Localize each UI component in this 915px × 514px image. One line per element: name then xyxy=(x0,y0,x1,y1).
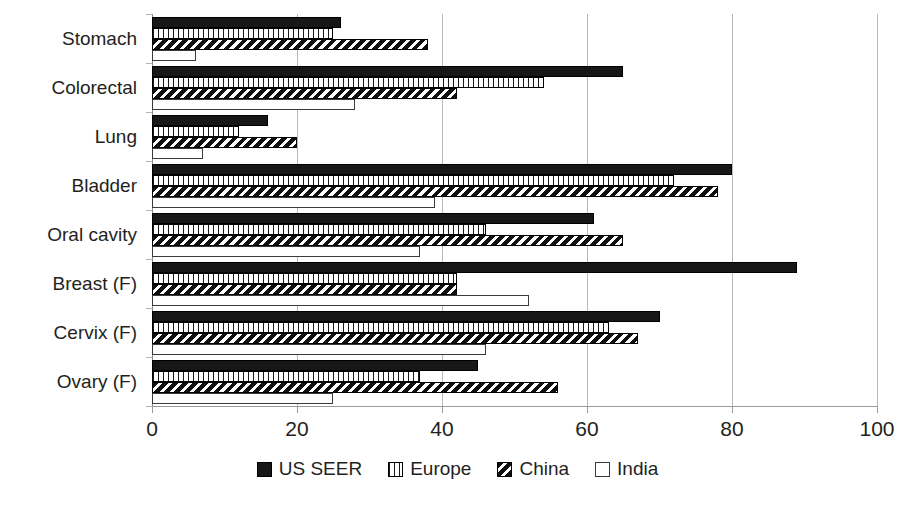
legend-label: China xyxy=(519,458,569,480)
bar-bladder-china xyxy=(152,186,718,197)
x-tick-0 xyxy=(152,406,153,413)
legend-item-china[interactable]: China xyxy=(497,458,569,480)
category-tick xyxy=(146,357,152,358)
bar-stomach-china xyxy=(152,39,428,50)
bar-cervix-f-india xyxy=(152,344,486,355)
x-tick-label-20: 20 xyxy=(285,417,308,441)
x-tick-label-0: 0 xyxy=(146,417,158,441)
category-tick xyxy=(146,14,152,15)
bar-bladder-europe xyxy=(152,175,674,186)
bar-bladder-us-seer xyxy=(152,164,732,175)
bar-cervix-f-europe xyxy=(152,322,609,333)
x-tick-80 xyxy=(732,406,733,413)
gridline-100 xyxy=(877,14,878,406)
bar-oral-cavity-europe xyxy=(152,224,486,235)
bar-oral-cavity-china xyxy=(152,235,623,246)
bar-breast-f-us-seer xyxy=(152,262,797,273)
gridline-80 xyxy=(732,14,733,406)
category-label-breast-f: Breast (F) xyxy=(0,274,137,293)
x-tick-60 xyxy=(587,406,588,413)
x-axis-labels: 020406080100 xyxy=(0,417,915,447)
x-tick-20 xyxy=(297,406,298,413)
x-tick-label-60: 60 xyxy=(575,417,598,441)
bar-colorectal-europe xyxy=(152,77,544,88)
category-label-stomach: Stomach xyxy=(0,29,137,48)
bar-breast-f-india xyxy=(152,295,529,306)
bar-stomach-india xyxy=(152,50,196,61)
category-tick xyxy=(146,308,152,309)
category-tick xyxy=(146,63,152,64)
bar-ovary-f-us-seer xyxy=(152,360,478,371)
bar-cervix-f-china xyxy=(152,333,638,344)
category-tick xyxy=(146,210,152,211)
bar-colorectal-china xyxy=(152,88,457,99)
x-tick-label-80: 80 xyxy=(720,417,743,441)
category-label-colorectal: Colorectal xyxy=(0,78,137,97)
category-tick xyxy=(146,112,152,113)
category-tick xyxy=(146,259,152,260)
x-tick-40 xyxy=(442,406,443,413)
bar-cervix-f-us-seer xyxy=(152,311,660,322)
x-tick-label-40: 40 xyxy=(430,417,453,441)
x-axis-line xyxy=(152,406,878,407)
bar-stomach-europe xyxy=(152,28,333,39)
legend-item-india[interactable]: India xyxy=(595,458,658,480)
bar-breast-f-china xyxy=(152,284,457,295)
bar-lung-us-seer xyxy=(152,115,268,126)
category-label-bladder: Bladder xyxy=(0,176,137,195)
category-label-ovary-f: Ovary (F) xyxy=(0,372,137,391)
category-label-cervix-f: Cervix (F) xyxy=(0,323,137,342)
bar-chart: StomachColorectalLungBladderOral cavityB… xyxy=(0,0,915,514)
legend-label: US SEER xyxy=(279,458,362,480)
bar-colorectal-us-seer xyxy=(152,66,623,77)
bar-stomach-us-seer xyxy=(152,17,341,28)
bar-lung-europe xyxy=(152,126,239,137)
category-label-lung: Lung xyxy=(0,127,137,146)
bar-lung-india xyxy=(152,148,203,159)
bar-oral-cavity-us-seer xyxy=(152,213,594,224)
diagonal-hatch-swatch xyxy=(497,462,512,477)
bar-bladder-india xyxy=(152,197,435,208)
bar-lung-china xyxy=(152,137,297,148)
plot-area xyxy=(152,14,877,406)
solid-black-swatch xyxy=(257,462,272,477)
legend-item-us-seer[interactable]: US SEER xyxy=(257,458,362,480)
category-label-oral-cavity: Oral cavity xyxy=(0,225,137,244)
legend-label: Europe xyxy=(410,458,471,480)
chart-legend: US SEEREuropeChinaIndia xyxy=(0,458,915,480)
bar-ovary-f-europe xyxy=(152,371,420,382)
legend-item-europe[interactable]: Europe xyxy=(388,458,471,480)
bar-ovary-f-china xyxy=(152,382,558,393)
bar-colorectal-india xyxy=(152,99,355,110)
category-axis-labels: StomachColorectalLungBladderOral cavityB… xyxy=(0,14,145,406)
open-white-swatch xyxy=(595,462,610,477)
bar-oral-cavity-india xyxy=(152,246,420,257)
bar-ovary-f-india xyxy=(152,393,333,404)
x-tick-label-100: 100 xyxy=(859,417,894,441)
bar-breast-f-europe xyxy=(152,273,457,284)
x-tick-100 xyxy=(877,406,878,413)
dotted-swatch xyxy=(388,462,403,477)
legend-label: India xyxy=(617,458,658,480)
category-tick xyxy=(146,161,152,162)
